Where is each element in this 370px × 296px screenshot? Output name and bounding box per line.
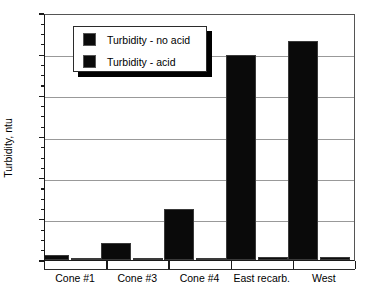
x-axis-separator-tick (355, 261, 356, 269)
legend-label: Turbidity - no acid (107, 34, 190, 46)
x-axis-separator-tick (168, 261, 169, 269)
legend-entry: Turbidity - no acid (83, 33, 190, 46)
bar (101, 243, 131, 261)
bar (320, 257, 350, 260)
x-axis-tick-label: Cone #3 (106, 272, 168, 285)
bar (133, 258, 163, 260)
legend-label: Turbidity - acid (107, 56, 175, 68)
y-axis-title: Turbidity, ntu (0, 0, 16, 296)
legend-color-swatch (83, 55, 96, 68)
bar (226, 55, 256, 260)
x-axis-separator-tick (231, 261, 232, 269)
legend-color-swatch (83, 33, 96, 46)
bar (288, 41, 318, 260)
x-axis-separator-tick (44, 261, 45, 269)
bar (196, 258, 226, 261)
bar (45, 255, 69, 260)
turbidity-bar-chart: Turbidity, ntu 024681012 Cone #1Cone #3C… (0, 0, 370, 296)
x-axis-tick-label: East recarb. (231, 272, 293, 285)
bar (258, 257, 288, 260)
bar (71, 258, 101, 261)
x-axis-separator-tick (293, 261, 294, 269)
legend-entry: Turbidity - acid (83, 55, 175, 68)
bar (164, 209, 194, 261)
x-axis-tick-label: Cone #1 (44, 272, 106, 285)
x-axis-baseline (44, 269, 355, 270)
x-axis-tick-label: Cone #4 (168, 272, 230, 285)
x-axis-tick-label: West (293, 272, 355, 285)
x-axis-separator-tick (106, 261, 107, 269)
